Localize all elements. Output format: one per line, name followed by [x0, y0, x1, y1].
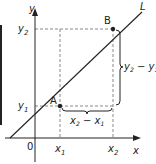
x-axis	[5, 135, 141, 141]
point-a-dot	[58, 104, 62, 108]
y-axis	[32, 8, 38, 162]
x-axis-arrow-icon	[133, 135, 141, 141]
run-label: x2 − x1	[69, 115, 104, 127]
run-bracket	[62, 108, 112, 114]
y2-tick-label: y2	[17, 23, 29, 37]
line-label: L	[140, 1, 146, 12]
point-a-label: A	[50, 95, 57, 106]
coordinate-diagram: L A B y x 0 y2 y1 x1 x2 y2 − y1 x2 − x1	[0, 0, 156, 164]
y-axis-label: y	[28, 3, 36, 14]
x1-tick-label: x1	[54, 143, 65, 157]
margin-bar	[0, 25, 2, 125]
y1-tick-label: y1	[17, 100, 28, 114]
point-b-label: B	[104, 15, 111, 26]
x-axis-label: x	[132, 145, 139, 156]
point-b-dot	[111, 27, 115, 31]
rise-label: y2 − y1	[123, 61, 156, 73]
origin-label: 0	[27, 141, 33, 152]
x2-tick-label: x2	[107, 143, 119, 157]
rise-bracket	[116, 30, 123, 105]
